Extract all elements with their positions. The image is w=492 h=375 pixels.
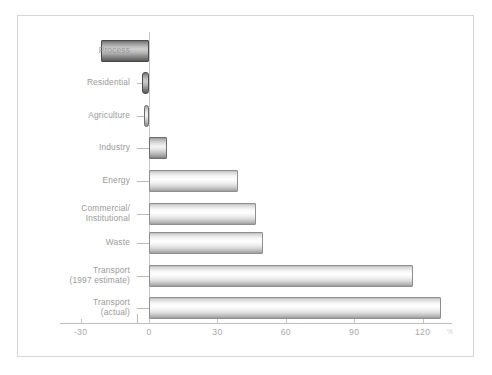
chart-plot-area: ProcessResidentialAgricultureIndustryEne… [0,0,492,375]
bar-5 [149,203,256,225]
x-tick-label-5: 120 [415,327,430,337]
x-tick-label-2: 30 [212,327,222,337]
bar-7 [149,265,413,287]
bar-8 [149,297,441,319]
category-label-5: Commercial/ Institutional [20,204,130,223]
x-tick-mark-3 [286,319,287,323]
x-tick-mark-2 [217,319,218,323]
bar-6 [149,232,263,254]
category-tick-8 [137,308,149,309]
bar-1 [142,72,149,94]
category-label-1: Residential [20,78,130,88]
category-tick-5 [137,214,149,215]
x-tick-mark-0 [81,319,82,323]
bar-3 [149,137,167,159]
category-label-8: Transport (actual) [20,298,130,317]
bar-4 [149,170,238,192]
category-tick-3 [137,148,149,149]
x-tick-label-1: 0 [146,327,151,337]
category-label-7: Transport (1997 estimate) [20,266,130,285]
x-tick-label-4: 90 [349,327,359,337]
category-axis-spine [137,314,138,323]
x-tick-label-0: -30 [74,327,87,337]
category-label-2: Agriculture [20,111,130,121]
x-axis-line [60,323,452,324]
x-axis-unit-label: % [447,328,453,335]
x-tick-mark-1 [149,319,150,323]
category-tick-6 [137,243,149,244]
category-label-0: Process [20,46,130,56]
x-tick-label-3: 60 [281,327,291,337]
bar-2 [144,105,149,127]
category-label-4: Energy [20,176,130,186]
category-label-3: Industry [20,143,130,153]
chart-screenshot: ProcessResidentialAgricultureIndustryEne… [0,0,492,375]
category-tick-4 [137,181,149,182]
x-tick-mark-4 [354,319,355,323]
category-tick-7 [137,276,149,277]
x-tick-mark-5 [423,319,424,323]
category-label-6: Waste [20,238,130,248]
